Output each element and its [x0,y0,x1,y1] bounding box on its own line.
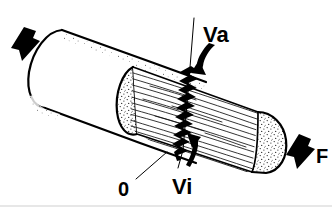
label-origin: 0 [118,178,129,200]
label-vi: Vi [172,174,192,199]
cylinder-right-end-cap [252,112,286,173]
figure-root: Va Vi 0 F [0,0,332,210]
specimen-fracture-illustration: Va Vi 0 F [0,0,332,210]
label-va: Va [203,22,229,47]
load-arrow-down-right [286,134,315,169]
curved-arrow-va [191,43,215,75]
origin-leader-line [136,152,167,179]
label-force: F [316,145,328,167]
